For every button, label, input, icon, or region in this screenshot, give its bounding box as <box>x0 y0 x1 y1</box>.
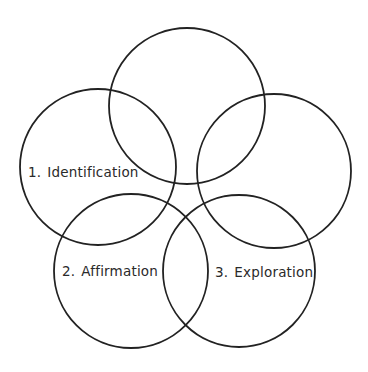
label-identification: 1.Identification <box>28 164 139 180</box>
label-text: Affirmation <box>81 263 158 279</box>
label-number: 3. <box>215 264 228 280</box>
circle-top <box>109 28 265 184</box>
label-number: 1. <box>28 164 41 180</box>
label-affirmation: 2.Affirmation <box>62 263 158 279</box>
circle-right <box>197 94 351 248</box>
label-exploration: 3.Exploration <box>215 264 313 280</box>
label-text: Exploration <box>234 264 313 280</box>
label-number: 2. <box>62 263 75 279</box>
label-text: Identification <box>47 164 138 180</box>
five-circle-diagram <box>0 0 368 372</box>
